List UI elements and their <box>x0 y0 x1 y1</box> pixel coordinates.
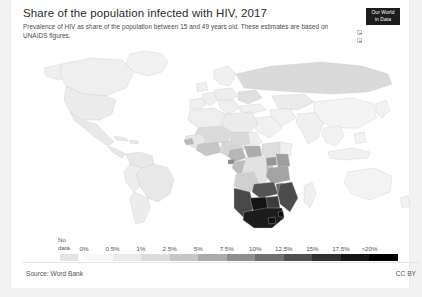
page-subtitle: Prevalence of HIV as share of the popula… <box>23 23 345 40</box>
region-japan <box>376 100 390 118</box>
legend-segment <box>84 254 113 261</box>
region-central-african-republic <box>244 146 262 158</box>
region-hispaniola <box>130 140 138 144</box>
chart-page: Share of the population infected with HI… <box>0 0 422 297</box>
legend-tick-label: >20% <box>361 245 377 252</box>
page-bottom-strip <box>0 288 422 297</box>
legend-tick-label: 12.5% <box>275 245 293 252</box>
region-indonesia <box>328 148 370 160</box>
legend-gradient-bar[interactable] <box>84 254 398 261</box>
source-label[interactable]: Source: Word Bank <box>26 270 83 277</box>
region-mozambique <box>278 182 298 212</box>
region-tanzania <box>266 166 290 184</box>
region-south-africa <box>243 208 284 228</box>
region-madagascar <box>304 182 316 208</box>
region-russia <box>236 62 392 94</box>
region-cote-divoire-ghana <box>196 142 222 156</box>
legend-labels: No data 0%0.5%1%2.5%5%7.5%10%12.5%15%17.… <box>58 236 398 253</box>
region-new-zealand <box>400 196 410 208</box>
region-central-america <box>108 146 126 158</box>
legend-bars <box>58 254 398 261</box>
logo-line-1: Our World <box>371 10 394 17</box>
page-title: Share of the population infected with HI… <box>23 6 371 20</box>
legend-no-data-line-2: data <box>58 244 80 252</box>
region-morocco-algeria <box>188 108 226 128</box>
legend-tick-label: 5% <box>194 245 203 252</box>
region-eswatini <box>278 211 284 217</box>
region-scandinavia <box>214 66 236 86</box>
legend-segment <box>227 254 256 261</box>
legend-tick-label: 2.5% <box>163 245 177 252</box>
zoom-in-icon[interactable] <box>357 30 362 35</box>
world-choropleth-map[interactable] <box>22 48 420 230</box>
region-uk-ireland <box>196 82 208 92</box>
legend-tick-label: 0% <box>80 245 89 252</box>
chart-card: Share of the population infected with HI… <box>10 0 410 288</box>
legend-segment <box>255 254 284 261</box>
region-uganda <box>266 157 277 166</box>
chart-footer: Source: Word Bank CC BY <box>22 262 420 288</box>
map-controls <box>357 30 363 46</box>
region-southeast-asia <box>322 126 344 146</box>
license-label[interactable]: CC BY <box>396 270 416 277</box>
region-australia <box>344 168 392 200</box>
legend-segment <box>284 254 313 261</box>
region-zambia <box>252 182 278 198</box>
legend-no-data-label: No data <box>58 236 80 251</box>
legend-segment <box>141 254 170 261</box>
map-svg <box>22 48 420 230</box>
region-lesotho <box>268 217 276 224</box>
legend-no-data-swatch[interactable] <box>60 254 78 261</box>
logo-line-2: in Data <box>375 17 391 24</box>
region-cuba <box>114 136 128 141</box>
legend-tick-label: 17.5% <box>332 245 350 252</box>
legend-tick-label: 10% <box>249 245 261 252</box>
chart-header: Share of the population infected with HI… <box>23 6 371 40</box>
legend-tick-label: 7.5% <box>220 245 234 252</box>
legend-tick-label: 0.5% <box>105 245 119 252</box>
legend-segment <box>341 254 370 261</box>
region-central-asia <box>272 94 314 110</box>
our-world-in-data-logo[interactable]: Our World in Data <box>366 8 400 25</box>
region-philippines <box>354 132 366 144</box>
legend-no-data-line-1: No <box>58 236 80 244</box>
legend-segment <box>198 254 227 261</box>
legend-tick-label: 15% <box>306 245 318 252</box>
legend-segment <box>312 254 341 261</box>
legend-tick-label: 1% <box>137 245 146 252</box>
region-ukraine <box>238 90 262 104</box>
legend-segment <box>170 254 199 261</box>
legend-segment <box>369 254 398 261</box>
zoom-out-icon[interactable] <box>357 38 362 43</box>
legend-segment <box>113 254 142 261</box>
map-legend: No data 0%0.5%1%2.5%5%7.5%10%12.5%15%17.… <box>58 236 398 261</box>
